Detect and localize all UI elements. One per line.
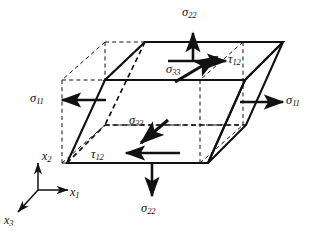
label-sigma22-bottom: σ22 xyxy=(141,202,155,216)
label-sigma11-left: σ11 xyxy=(30,92,44,106)
axis-x3-line xyxy=(18,190,38,212)
label-axis-x1: x1 xyxy=(70,186,79,200)
label-tau12-bottom: τ12 xyxy=(91,148,104,162)
label-sigma11-right: σ11 xyxy=(286,94,300,108)
label-tau12-top: τ12 xyxy=(228,53,241,67)
label-sigma33-inner: σ33 xyxy=(129,114,143,128)
label-axis-x2: x2 xyxy=(42,150,51,164)
dashed-edge-back-top-left xyxy=(62,42,105,80)
label-sigma33-top: σ33 xyxy=(166,63,180,77)
arrow-sigma33-inner xyxy=(141,120,168,143)
hidden-edge-back-left-vertical xyxy=(105,42,145,125)
label-axis-x3: x3 xyxy=(4,214,13,228)
label-sigma22-top: σ22 xyxy=(182,6,196,20)
figure-caption xyxy=(0,230,319,241)
stress-element-svg xyxy=(0,0,319,241)
coordinate-axes xyxy=(18,163,68,212)
figure-root: σ22 σ22 σ11 σ11 σ33 σ33 τ12 τ12 x2 x1 x3 xyxy=(0,0,319,241)
